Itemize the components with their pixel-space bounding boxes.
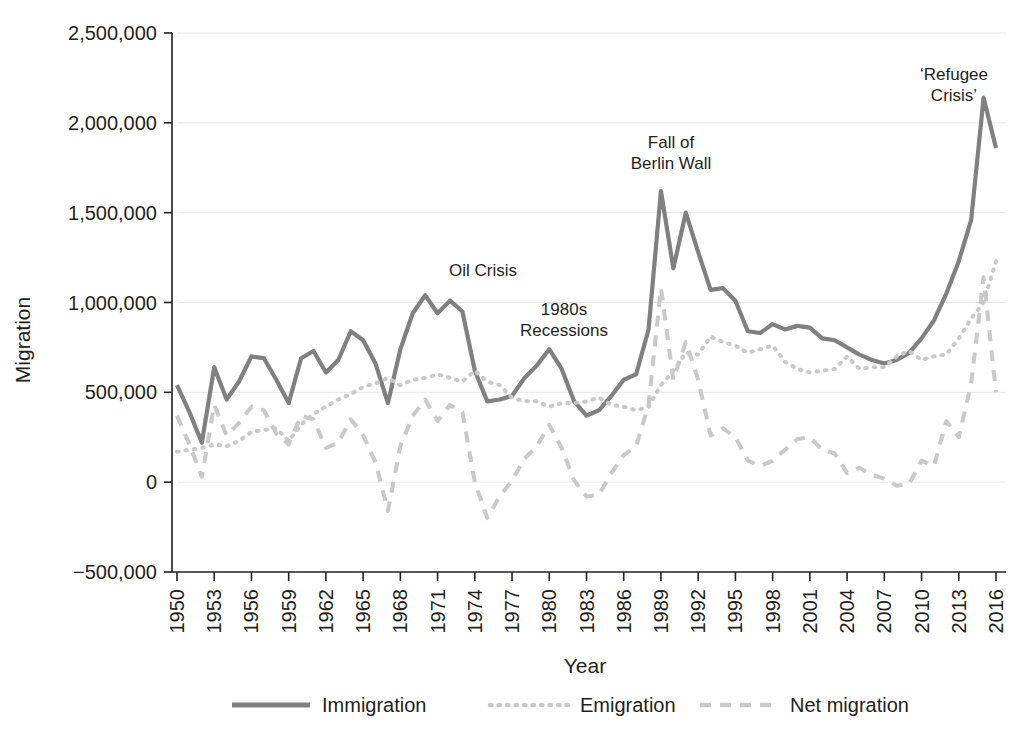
y-axis-tick-label: 2,500,000 (68, 22, 157, 44)
x-axis-tick-label: 1995 (724, 589, 746, 634)
y-axis-tick-label: 2,000,000 (68, 112, 157, 134)
y-axis-tick-label: 1,500,000 (68, 202, 157, 224)
x-axis-tick-label: 1962 (315, 589, 337, 634)
x-axis-tick-label: 1983 (576, 589, 598, 634)
legend-label-net-migration: Net migration (790, 694, 909, 716)
annotation-recessions-1980s: 1980sRecessions (520, 300, 608, 340)
x-axis-tick-label: 1974 (464, 589, 486, 634)
y-axis-tick-label: −500,000 (73, 561, 157, 583)
legend-label-emigration: Emigration (580, 694, 676, 716)
x-axis-tick-label: 1953 (203, 589, 225, 634)
x-axis-tick-label: 2010 (911, 589, 933, 634)
x-axis-tick-label: 1989 (650, 589, 672, 634)
x-axis-tick-label: 2007 (873, 589, 895, 634)
y-axis-tick-label: 0 (146, 471, 157, 493)
y-axis-title: Migration (11, 297, 34, 383)
y-axis-tick-label: 1,000,000 (68, 292, 157, 314)
migration-line-chart: 2,500,0002,000,0001,500,0001,000,000500,… (0, 0, 1018, 737)
x-axis-tick-label: 1965 (352, 589, 374, 634)
annotation-oil-crisis: Oil Crisis (449, 261, 517, 280)
x-axis-tick-label: 1980 (538, 589, 560, 634)
x-axis-tick-label: 1977 (501, 589, 523, 634)
x-axis-tick-label: 1950 (166, 589, 188, 634)
annotation-refugee-crisis: ‘RefugeeCrisis’ (920, 65, 988, 105)
x-axis-tick-label: 2001 (799, 589, 821, 634)
series-line-immigration (177, 98, 996, 443)
annotation-fall-of-berlin-wall: Fall ofBerlin Wall (631, 133, 712, 173)
x-axis-tick-label: 1992 (687, 589, 709, 634)
x-axis-tick-label: 1968 (389, 589, 411, 634)
x-axis-tick-label: 1959 (278, 589, 300, 634)
chart-canvas: 2,500,0002,000,0001,500,0001,000,000500,… (0, 0, 1018, 737)
x-axis-tick-label: 2016 (985, 589, 1007, 634)
x-axis-ticks: 1950195319561959196219651968197119741977… (166, 572, 1007, 634)
x-axis-tick-label: 2013 (948, 589, 970, 634)
legend-label-immigration: Immigration (322, 694, 426, 716)
x-axis-tick-label: 1998 (762, 589, 784, 634)
annotations-group: Oil Crisis1980sRecessionsFall ofBerlin W… (449, 65, 988, 340)
x-axis-title: Year (564, 654, 606, 677)
x-axis-tick-label: 2004 (836, 589, 858, 634)
y-axis-ticks: 2,500,0002,000,0001,500,0001,000,000500,… (68, 22, 172, 583)
chart-legend: ImmigrationEmigrationNet migration (232, 694, 909, 716)
x-axis-tick-label: 1986 (613, 589, 635, 634)
x-axis-tick-label: 1971 (427, 589, 449, 634)
y-axis-tick-label: 500,000 (85, 381, 157, 403)
x-axis-tick-label: 1956 (240, 589, 262, 634)
